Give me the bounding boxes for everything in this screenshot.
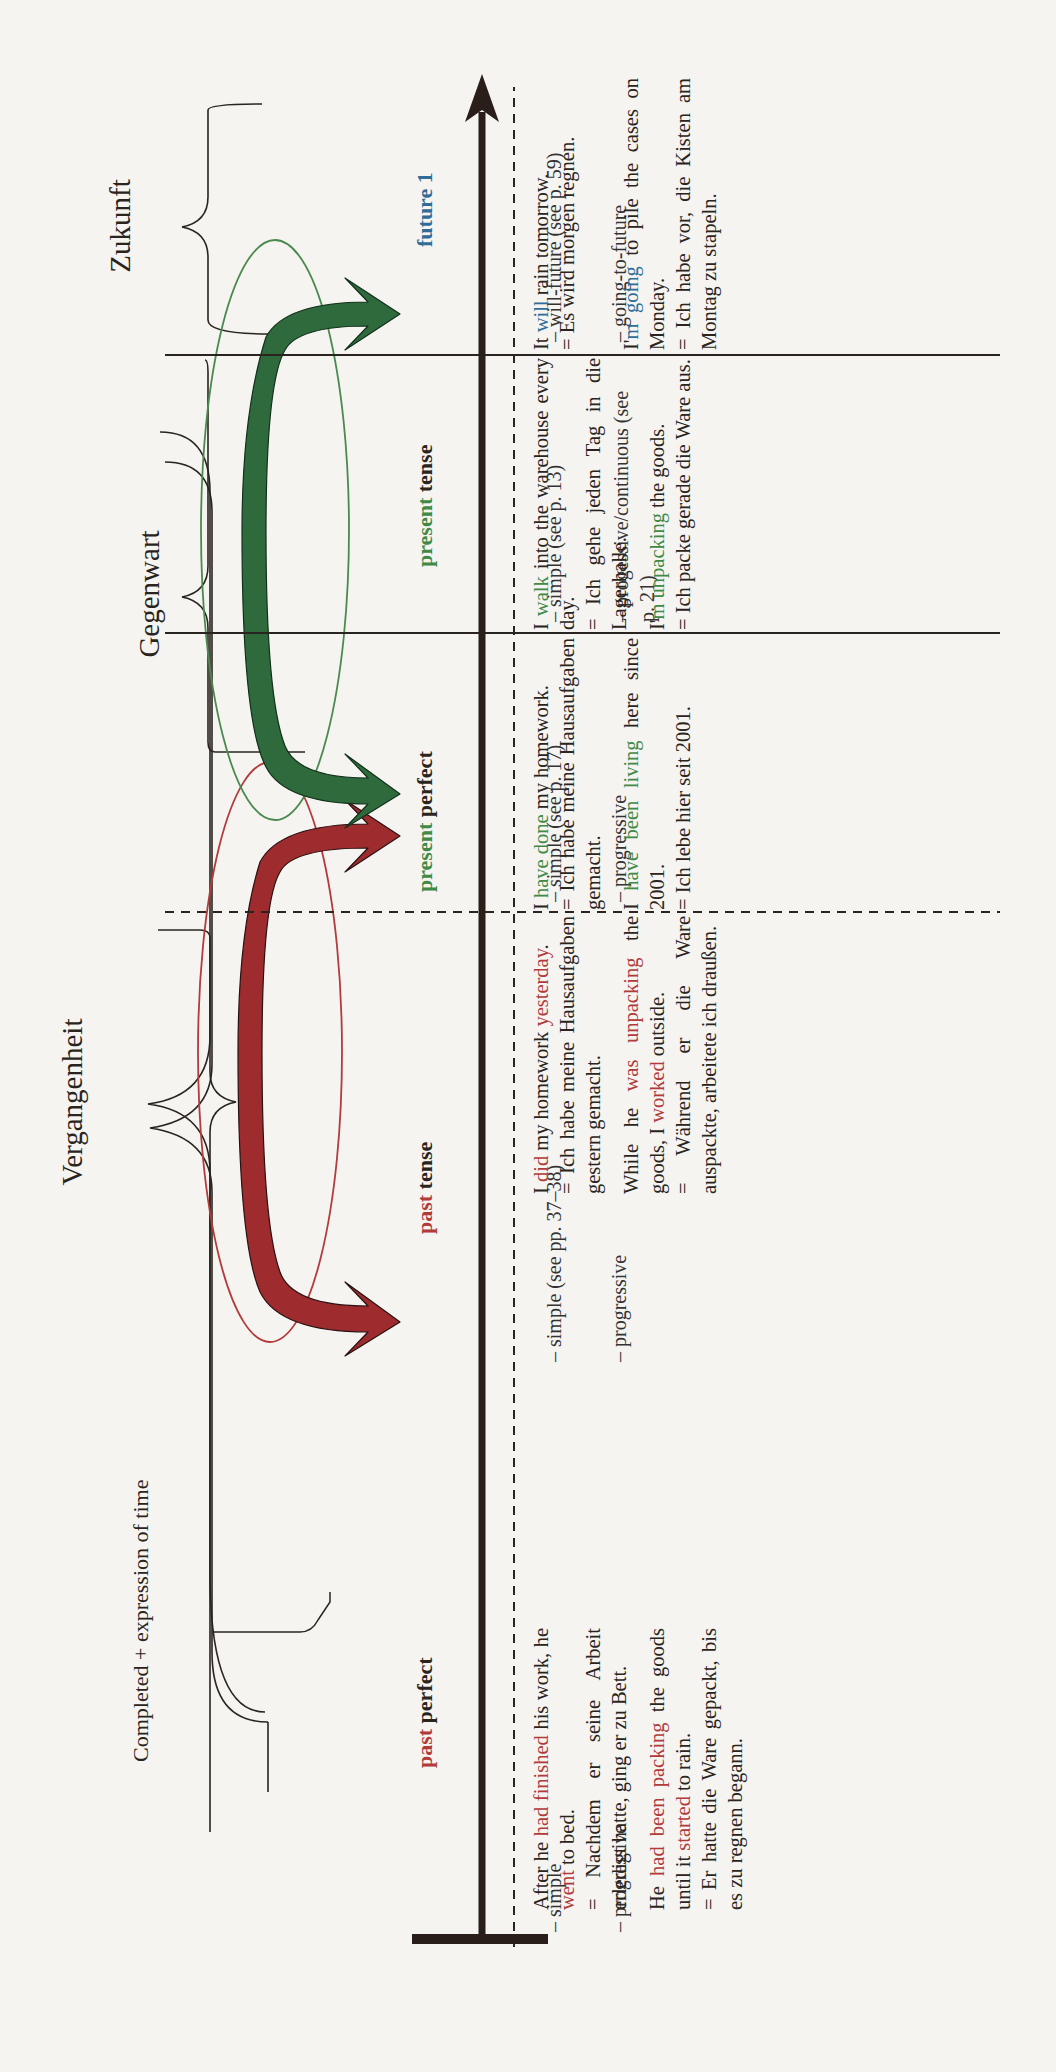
example-german: = Er hatte die Ware gepackt, bis es zu r… xyxy=(696,1628,748,1910)
period-braces xyxy=(158,104,305,1832)
example-english: I did my homework yesterday. xyxy=(528,916,554,1194)
tense-timeline-page: Vergangenheit Gegenwart Zukunft Complete… xyxy=(0,0,1056,2072)
example-english: While he was unpacking the goods, I work… xyxy=(618,916,670,1194)
tense-label-colored: future 1 xyxy=(412,172,437,247)
highlighted-verb: started xyxy=(672,1796,694,1851)
tense-label-rest: tense xyxy=(412,445,437,498)
highlighted-verb: m going xyxy=(620,266,642,339)
tense-label-present-tense: present tense xyxy=(412,445,438,567)
examples-present-tense: I walk into the warehouse every day. = I… xyxy=(528,358,696,630)
completed-note: Completed + expression of time xyxy=(128,1480,154,1762)
tense-label-future-1: future 1 xyxy=(412,172,438,247)
highlighted-verb: worked xyxy=(646,1061,668,1122)
brace-vergangenheit xyxy=(208,1700,263,2072)
example-german: = Ich habe meine Hausaufgaben gestern ge… xyxy=(554,916,606,1194)
example-german: = Es wird morgen regnen. xyxy=(554,78,580,350)
example-text: It xyxy=(530,332,552,350)
present-u-arrow xyxy=(242,278,400,828)
highlighted-verb: did xyxy=(530,1156,552,1182)
highlighted-verb: was unpacking xyxy=(620,958,642,1092)
example-german: = Nachdem er seine Arbeit erledigt hatte… xyxy=(580,1628,632,1910)
examples-future-1: It will rain tomorrow. = Es wird morgen … xyxy=(528,78,722,350)
example-text: He xyxy=(646,1876,668,1910)
tense-label-rest: perfect xyxy=(412,1657,437,1728)
example-english: It will rain tomorrow. xyxy=(528,78,554,350)
tense-label-colored: present xyxy=(412,498,437,567)
example-text: I' xyxy=(646,619,668,630)
example-text: While he xyxy=(620,1091,642,1194)
brace-zukunft-path xyxy=(182,104,270,334)
example-german: = Ich lebe hier seit 2001. xyxy=(670,638,696,910)
example-text: to rain. xyxy=(672,1733,694,1796)
example-text: I xyxy=(530,616,552,630)
past-arrow-group xyxy=(350,772,442,1734)
highlighted-verb: have done xyxy=(530,814,552,898)
example-text: the goods. xyxy=(646,424,668,513)
tense-label-colored: present xyxy=(412,823,437,892)
highlighted-verb: had been packing xyxy=(646,1722,668,1876)
example-english: I have done my homework. xyxy=(528,638,554,910)
example-english: I walk into the warehouse every day. xyxy=(528,358,580,630)
example-german: = Ich habe vor, die Kisten am Montag zu … xyxy=(670,78,722,350)
example-text: outside. xyxy=(646,992,668,1061)
examples-past-tense: I did my homework yesterday. = Ich habe … xyxy=(528,916,722,1194)
brace-gegenwart xyxy=(166,355,310,782)
example-english: After he had finished his work, he went … xyxy=(528,1628,580,1910)
tense-label-present-perfect: present perfect xyxy=(412,751,438,892)
example-text: to bed. xyxy=(556,1809,578,1870)
tense-label-rest: tense xyxy=(412,1142,437,1195)
past-u-arrow xyxy=(238,800,400,1356)
example-text: rain tomorrow. xyxy=(530,174,552,301)
example-english: He had been packing the goods until it s… xyxy=(644,1628,696,1910)
highlighted-verb: have been living xyxy=(620,740,642,890)
period-past-label: Vergangenheit xyxy=(56,1019,89,1186)
connector-past xyxy=(212,1592,330,1632)
tense-label-rest: perfect xyxy=(412,751,437,822)
period-future-label: Zukunft xyxy=(104,179,137,272)
highlighted-verb: walk xyxy=(530,576,552,616)
example-german: = Während er die Ware auspackte, arbeite… xyxy=(670,916,722,1194)
highlighted-verb: had finished xyxy=(530,1735,552,1836)
example-text: I xyxy=(530,898,552,910)
example-text: I xyxy=(620,891,642,910)
period-present-label: Gegenwart xyxy=(133,530,166,657)
tense-timeline-diagram: Vergangenheit Gegenwart Zukunft Complete… xyxy=(0,0,1056,2072)
example-text: I' xyxy=(620,339,642,350)
example-text: I xyxy=(530,1182,552,1194)
highlighted-verb: went xyxy=(556,1870,578,1910)
example-english: I'm unpacking the goods. xyxy=(644,358,670,630)
example-text: my homework. xyxy=(530,685,552,814)
example-text: After he xyxy=(530,1836,552,1910)
tense-label-colored: past xyxy=(412,1195,437,1234)
form-past-tense-simple: – simple (see pp. 37–38) xyxy=(543,1165,566,1362)
example-text: my homework xyxy=(530,1027,552,1156)
example-german: = Ich gehe jeden Tag in die Lagerhalle. xyxy=(580,358,632,630)
examples-past-perfect: After he had finished his work, he went … xyxy=(528,1628,748,1910)
highlighted-verb: yesterday xyxy=(530,949,552,1026)
example-german: = Ich packe gerade die Ware aus. xyxy=(670,358,696,630)
highlighted-verb: will xyxy=(530,300,552,332)
tense-label-past-tense: past tense xyxy=(412,1142,438,1234)
tense-label-colored: past xyxy=(412,1729,437,1768)
highlighted-verb: m unpacking xyxy=(646,513,668,619)
example-english: I'm going to pile the cases on Monday. xyxy=(618,78,670,350)
past-arrow-body xyxy=(350,772,442,1734)
brace-vergangenheit-path xyxy=(158,930,236,1832)
example-text: his work, he xyxy=(530,1628,552,1735)
example-text: . xyxy=(530,944,552,949)
tense-label-past-perfect: past perfect xyxy=(412,1657,438,1768)
example-english: I have been living here since 2001. xyxy=(618,638,670,910)
form-past-tense-progressive: – progressive xyxy=(608,1255,631,1362)
examples-present-perfect: I have done my homework. = Ich habe mein… xyxy=(528,638,696,910)
example-german: = Ich habe meine Hausaufgaben gemacht. xyxy=(554,638,606,910)
